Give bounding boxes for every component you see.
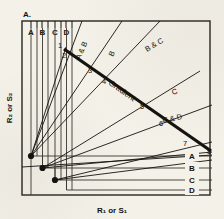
right-line-label-d: D <box>189 186 195 195</box>
y-axis-label: R₂ or S₂ <box>5 92 14 123</box>
region-label-c: C <box>170 86 179 97</box>
right-line-label-a: A <box>189 152 195 161</box>
gradient-point-5: 5 <box>140 102 144 111</box>
right-line-label-c: C <box>189 176 195 185</box>
pivot-dot-1 <box>28 153 34 159</box>
x-axis-label: R₁ or S₁ <box>97 206 128 215</box>
top-tick-marks <box>31 21 72 28</box>
nomogram-figure: A. A B C D <box>0 0 224 219</box>
gradient-point-7: 7 <box>183 139 187 148</box>
gradient-point-4: 4 <box>102 77 106 86</box>
gradient-label: Gradient <box>107 78 138 103</box>
pivot-dot-2 <box>39 165 45 171</box>
gradient-point-8: 8 <box>207 147 211 156</box>
gradient-point-1: 1 <box>58 41 62 50</box>
gradient-line <box>64 49 211 151</box>
right-line-label-b: B <box>189 164 195 173</box>
figure-caption: A. <box>23 10 31 19</box>
region-label-b-and-c: B & C <box>143 36 165 54</box>
region-label-a-and-b: A & B <box>74 40 90 61</box>
plot-frame <box>22 21 210 195</box>
region-label-b: B <box>107 50 117 58</box>
pivot-dot-3 <box>52 177 58 183</box>
region-label-c-and-d: C & D <box>162 112 184 125</box>
gradient-point-2: 2 <box>62 51 66 60</box>
gradient-point-3: 3 <box>88 66 92 75</box>
